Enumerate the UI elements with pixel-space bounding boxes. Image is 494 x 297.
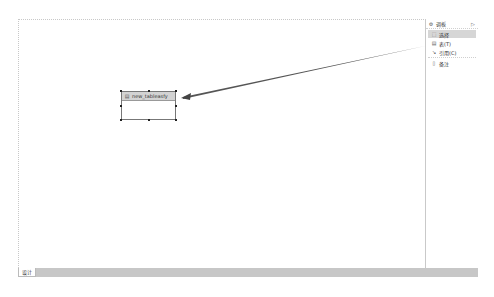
palette-panel: ⚙ 调板 ▷ ⬚ 选择 ▤ 表(T) ↘ 引用(C) ▯ 备注 (425, 19, 478, 268)
annotation-arrow (0, 0, 494, 297)
palette-item-reference[interactable]: ↘ 引用(C) (428, 48, 476, 56)
arrow-shaft (183, 46, 425, 99)
resize-handle-se[interactable] (175, 119, 177, 121)
resize-handle-ne[interactable] (175, 90, 177, 92)
resize-handle-sw[interactable] (120, 119, 122, 121)
palette-item-label: 引用(C) (439, 49, 456, 56)
resize-handle-s[interactable] (148, 119, 150, 121)
tab-design[interactable]: 设计 (18, 268, 36, 277)
bottom-tab-bar (18, 268, 478, 277)
palette-item-label: 表(T) (439, 40, 451, 47)
table-icon: ▤ (124, 93, 130, 99)
resize-handle-e[interactable] (175, 105, 177, 107)
palette-item-label: 备注 (439, 60, 449, 67)
resize-handle-n[interactable] (148, 90, 150, 92)
palette-separator (428, 57, 476, 58)
palette-item-note[interactable]: ▯ 备注 (428, 59, 476, 67)
palette-header[interactable]: ⚙ 调板 ▷ (426, 19, 478, 29)
palette-title: 调板 (436, 20, 470, 27)
arrow-head (181, 93, 191, 100)
entity-name: new_tableasfy (132, 93, 168, 99)
palette-item-label: 选择 (439, 31, 449, 38)
entity-table[interactable]: ▤ new_tableasfy (121, 91, 176, 120)
palette-item-select[interactable]: ⬚ 选择 (428, 30, 476, 38)
entity-header[interactable]: ▤ new_tableasfy (122, 92, 175, 101)
chevron-right-icon[interactable]: ▷ (470, 21, 476, 27)
palette-item-table[interactable]: ▤ 表(T) (428, 39, 476, 47)
reference-icon: ↘ (431, 49, 437, 55)
table-icon: ▤ (431, 40, 437, 46)
palette-icon: ⚙ (428, 21, 434, 27)
resize-handle-nw[interactable] (120, 90, 122, 92)
note-icon: ▯ (431, 60, 437, 66)
select-icon: ⬚ (431, 31, 437, 37)
resize-handle-w[interactable] (120, 105, 122, 107)
